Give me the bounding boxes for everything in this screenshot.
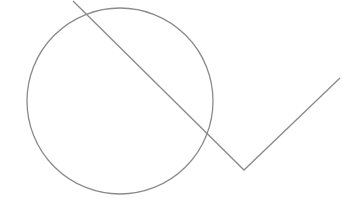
v-polyline-shape (73, 1, 340, 170)
circle-shape (27, 8, 213, 194)
drawing-canvas (0, 0, 342, 203)
